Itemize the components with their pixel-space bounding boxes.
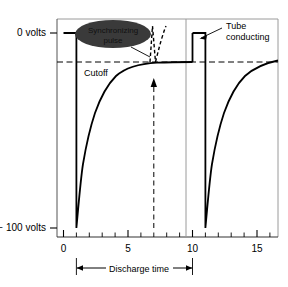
x-tick-label-5: 5 — [125, 243, 131, 254]
tube-conducting-label-line2: conducting — [226, 32, 270, 42]
figure-background — [0, 0, 288, 287]
chart-canvas: 0 volts − 100 volts 0 — [0, 0, 288, 287]
x-tick-label-15: 15 — [251, 243, 263, 254]
oscillator-waveform-figure: 0 volts − 100 volts 0 — [0, 0, 288, 287]
x-tick-label-10: 10 — [187, 243, 199, 254]
tube-conducting-label-line1: Tube — [226, 21, 246, 31]
x-tick-label-0: 0 — [61, 243, 67, 254]
y-tick-label-minus100volts: − 100 volts — [0, 222, 46, 233]
sync-pulse-label-line1: Synchronizing — [88, 26, 138, 35]
y-tick-label-0volts: 0 volts — [17, 27, 46, 38]
sync-pulse-label-line2: pulse — [103, 36, 123, 45]
discharge-time-label: Discharge time — [109, 264, 169, 274]
cutoff-label: Cutoff — [84, 68, 108, 78]
